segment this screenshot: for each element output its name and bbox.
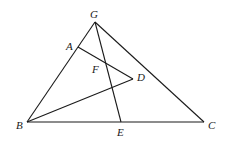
segment-gb — [27, 22, 95, 122]
segment-ge — [95, 22, 121, 122]
label-c: C — [208, 119, 216, 131]
label-e: E — [116, 126, 124, 138]
label-g: G — [90, 8, 98, 20]
label-d: D — [136, 71, 145, 83]
geometry-diagram: G A F D B E C — [0, 0, 227, 144]
segment-bd — [27, 79, 133, 122]
segment-gc — [95, 22, 204, 122]
label-a: A — [65, 40, 73, 52]
label-f: F — [91, 63, 99, 75]
label-b: B — [16, 119, 23, 131]
